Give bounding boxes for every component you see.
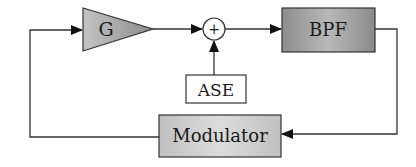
- bpf-block: BPF: [282, 8, 375, 52]
- bpf-label: BPF: [309, 19, 347, 40]
- ase-label: ASE: [197, 80, 234, 100]
- gain-label: G: [98, 18, 113, 40]
- sum-junction: +: [203, 18, 225, 40]
- sum-label: +: [208, 21, 220, 37]
- modulator-label: Modulator: [172, 125, 268, 146]
- modulator-block: Modulator: [159, 115, 281, 157]
- gain-block: G: [83, 8, 153, 51]
- ring-laser-block-diagram: G + BPF ASE Modulator: [0, 0, 416, 167]
- amplifier-triangle-icon: [83, 8, 153, 51]
- ase-block: ASE: [186, 75, 246, 103]
